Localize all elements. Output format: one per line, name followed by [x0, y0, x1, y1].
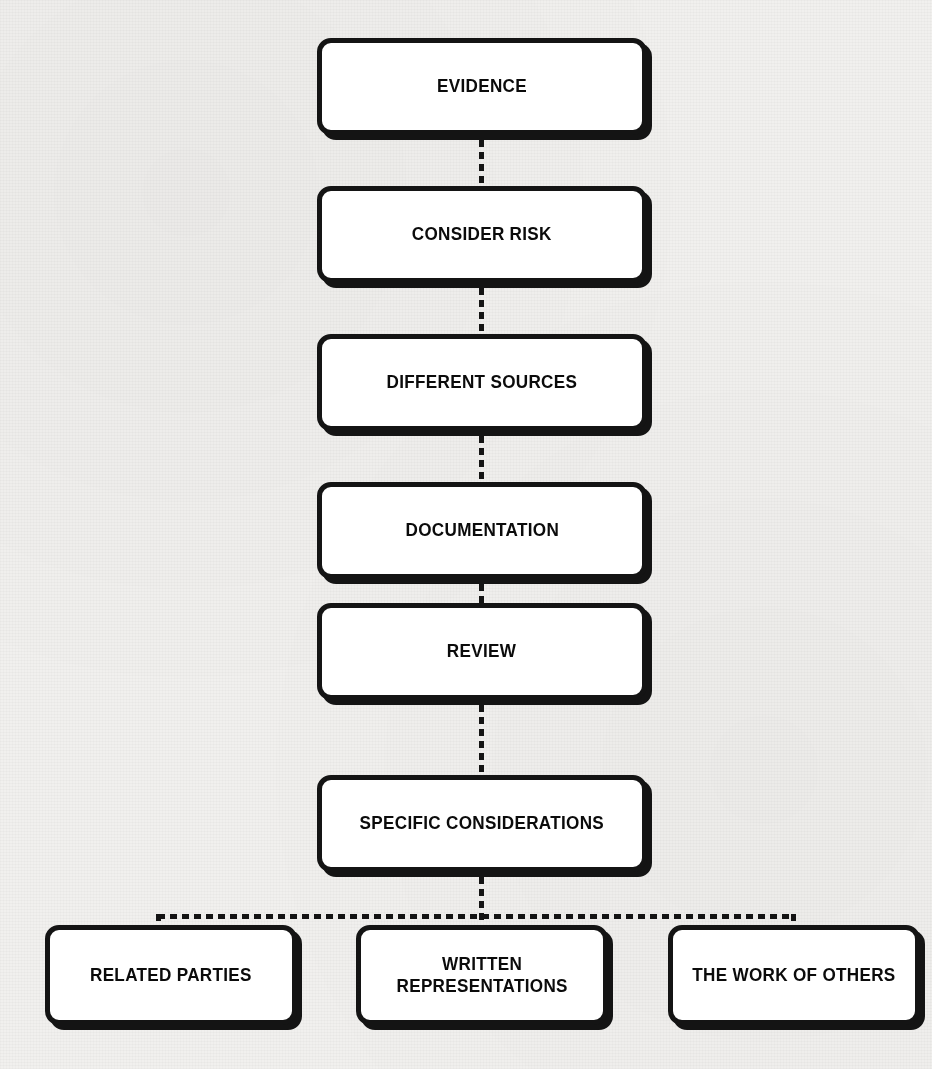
flowchart-node-label: WRITTEN REPRESENTATIONS [391, 953, 573, 997]
connector-review-to-specific-considerations [479, 705, 484, 773]
flowchart-node-label: DOCUMENTATION [400, 519, 564, 541]
connector-different-sources-to-documentation [479, 436, 484, 480]
flowchart-node-label: RELATED PARTIES [85, 964, 258, 986]
flowchart-node-related-parties[interactable]: RELATED PARTIES [45, 925, 297, 1025]
flowchart-node-label: SPECIFIC CONSIDERATIONS [354, 812, 609, 834]
flowchart-node-the-work-of-others[interactable]: THE WORK OF OTHERS [668, 925, 920, 1025]
flowchart-node-written-representations[interactable]: WRITTEN REPRESENTATIONS [356, 925, 608, 1025]
connector-branch-horizontal-bar [158, 914, 796, 919]
flowchart-node-label: CONSIDER RISK [407, 223, 558, 245]
connector-evidence-to-consider-risk [479, 140, 484, 184]
flowchart-node-evidence[interactable]: EVIDENCE [317, 38, 647, 135]
flowchart-node-consider-risk[interactable]: CONSIDER RISK [317, 186, 647, 283]
flowchart-diagram: EVIDENCE CONSIDER RISK DIFFERENT SOURCES… [0, 0, 932, 1069]
connector-consider-risk-to-different-sources [479, 288, 484, 332]
flowchart-node-label: DIFFERENT SOURCES [381, 371, 582, 393]
flowchart-node-label: EVIDENCE [432, 75, 533, 97]
flowchart-node-label: REVIEW [442, 640, 522, 662]
flowchart-node-different-sources[interactable]: DIFFERENT SOURCES [317, 334, 647, 431]
flowchart-node-label: THE WORK OF OTHERS [687, 964, 901, 986]
flowchart-node-specific-considerations[interactable]: SPECIFIC CONSIDERATIONS [317, 775, 647, 872]
flowchart-node-documentation[interactable]: DOCUMENTATION [317, 482, 647, 579]
flowchart-node-review[interactable]: REVIEW [317, 603, 647, 700]
